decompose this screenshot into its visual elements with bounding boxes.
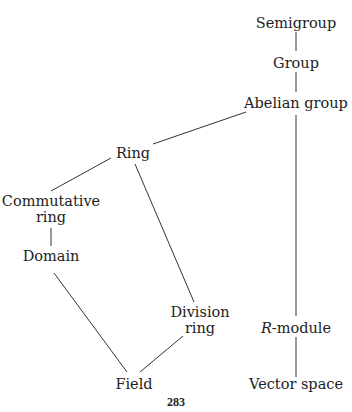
node-ring: Ring: [116, 145, 150, 161]
node-commutative-ring: Commutative ring: [2, 193, 100, 225]
edge-domain-field: [54, 273, 127, 372]
node-division-ring-line2: ring: [170, 320, 229, 336]
node-field: Field: [115, 376, 152, 392]
page-number: 283: [167, 395, 185, 410]
r-symbol: R: [261, 320, 272, 336]
node-r-module: R-module: [261, 320, 331, 336]
edge-abelian-group-ring: [153, 112, 246, 144]
node-group: Group: [273, 55, 319, 71]
edge-ring-commutative-ring: [51, 158, 111, 191]
edge-ring-division-ring: [135, 164, 194, 302]
node-vector-space: Vector space: [249, 376, 343, 392]
node-commutative-ring-line1: Commutative: [2, 193, 100, 209]
edge-division-ring-field: [140, 336, 183, 372]
node-semigroup: Semigroup: [256, 15, 336, 31]
node-abelian-group: Abelian group: [244, 95, 348, 111]
hierarchy-diagram: Semigroup Group Abelian group Ring Commu…: [0, 0, 352, 412]
node-division-ring-line1: Division: [170, 304, 229, 320]
node-division-ring: Division ring: [170, 304, 229, 336]
r-module-text: -module: [272, 320, 331, 336]
node-domain: Domain: [23, 248, 80, 264]
node-commutative-ring-line2: ring: [2, 209, 100, 225]
